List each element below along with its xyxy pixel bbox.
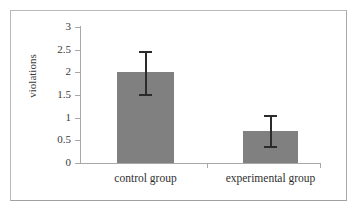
y-axis-tick-label: 2.5 xyxy=(38,44,71,55)
x-axis-category-label: experimental group xyxy=(191,172,351,184)
error-bar-stem xyxy=(270,115,272,146)
y-axis-tick xyxy=(75,140,81,141)
y-axis-tick xyxy=(75,163,81,164)
y-axis-tick xyxy=(75,95,81,96)
y-axis-tick-label: 0.5 xyxy=(38,134,71,145)
y-axis-tick-label: 1.5 xyxy=(38,89,71,100)
y-axis-tick-label: 2 xyxy=(38,66,71,77)
error-bar-cap-upper xyxy=(139,51,152,53)
y-axis-tick-label: 3 xyxy=(38,21,71,32)
error-bar-cap-lower xyxy=(264,146,277,148)
x-axis-end-tick xyxy=(320,163,321,168)
x-axis-line xyxy=(80,163,321,164)
y-axis-tick xyxy=(75,27,81,28)
y-axis-tick-label: 0 xyxy=(38,157,71,168)
y-axis-tick-label: 1 xyxy=(38,112,71,123)
error-bar-cap-upper xyxy=(264,115,277,117)
y-axis-tick xyxy=(75,118,81,119)
error-bar-stem xyxy=(145,51,147,95)
y-axis-tick xyxy=(75,50,81,51)
chart-figure: violations 00.511.522.53 control groupex… xyxy=(0,0,360,215)
error-bar-cap-lower xyxy=(139,94,152,96)
y-axis-title: violations xyxy=(26,36,38,116)
y-axis-tick xyxy=(75,72,81,73)
x-axis-category-separator-tick xyxy=(207,163,208,168)
